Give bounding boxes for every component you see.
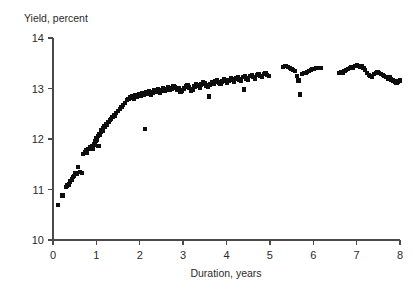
x-tick-label: 6 bbox=[310, 249, 316, 261]
x-tick-label: 0 bbox=[50, 249, 56, 261]
data-point bbox=[56, 203, 60, 207]
y-tick-label: 11 bbox=[33, 184, 44, 196]
data-point bbox=[319, 66, 323, 70]
data-point bbox=[207, 94, 211, 98]
data-point bbox=[85, 151, 89, 155]
y-tick-label: 13 bbox=[32, 83, 44, 95]
data-point bbox=[295, 74, 299, 78]
y-axis-title: Yield, percent bbox=[24, 12, 88, 24]
data-point bbox=[60, 193, 64, 197]
data-point bbox=[95, 138, 99, 142]
data-point bbox=[296, 78, 300, 82]
y-tick-label: 10 bbox=[32, 234, 44, 246]
y-axis-ticks: 1011121314 bbox=[32, 32, 53, 246]
data-point bbox=[398, 78, 402, 82]
data-point bbox=[143, 127, 147, 131]
data-point bbox=[91, 147, 95, 151]
data-point bbox=[80, 171, 84, 175]
scatter-plot: Yield, percent Duration, years 101112131… bbox=[0, 0, 419, 292]
y-tick-label: 12 bbox=[32, 133, 44, 145]
data-point bbox=[298, 92, 302, 96]
y-axis-title-group: Yield, percent bbox=[24, 12, 88, 24]
data-point bbox=[293, 69, 297, 73]
data-point bbox=[267, 74, 271, 78]
x-axis-ticks: 012345678 bbox=[50, 240, 403, 261]
data-point bbox=[93, 143, 97, 147]
data-point bbox=[242, 87, 246, 91]
x-tick-label: 5 bbox=[267, 249, 273, 261]
x-axis-title: Duration, years bbox=[190, 267, 261, 279]
chart-page: Yield, percent Duration, years 101112131… bbox=[0, 0, 419, 292]
x-tick-label: 8 bbox=[397, 249, 403, 261]
x-tick-label: 2 bbox=[137, 249, 143, 261]
data-points-group bbox=[56, 63, 402, 207]
x-tick-label: 3 bbox=[180, 249, 186, 261]
y-tick-label: 14 bbox=[32, 32, 44, 44]
x-tick-label: 4 bbox=[223, 249, 229, 261]
x-tick-label: 7 bbox=[354, 249, 360, 261]
data-point bbox=[96, 144, 100, 148]
data-point bbox=[76, 165, 80, 169]
x-tick-label: 1 bbox=[93, 249, 99, 261]
x-axis-title-group: Duration, years bbox=[190, 267, 261, 279]
